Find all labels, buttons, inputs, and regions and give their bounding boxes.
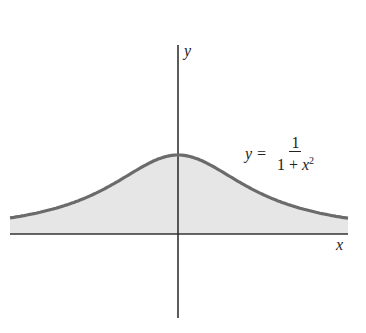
fraction: 1 1 + x2 <box>275 134 316 174</box>
denominator-variable: x <box>302 156 309 173</box>
denominator-exponent: 2 <box>309 155 314 166</box>
denominator-prefix: 1 + <box>277 156 302 173</box>
fraction-numerator: 1 <box>289 134 301 152</box>
fraction-denominator: 1 + x2 <box>275 152 316 174</box>
equation-label: y = 1 1 + x2 <box>245 134 316 174</box>
x-axis-label: x <box>336 236 343 254</box>
equation-lhs: y = <box>245 145 267 163</box>
y-axis-label: y <box>184 42 191 60</box>
